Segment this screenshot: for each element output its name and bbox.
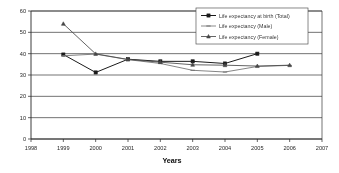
chart-legend: Life expectancy at birth (Total)Life exp… xyxy=(196,8,308,44)
y-tick-label: 60 xyxy=(20,8,26,14)
data-point-marker xyxy=(256,52,259,55)
x-axis-title: Years xyxy=(162,156,181,165)
x-tick-label: 2006 xyxy=(283,145,295,151)
legend-label: Life expectancy at birth (Total) xyxy=(219,13,290,19)
y-axis-ticks: 0102030405060 xyxy=(20,8,31,142)
data-point-marker xyxy=(61,22,65,26)
x-tick-label: 2005 xyxy=(251,145,263,151)
x-tick-label: 1999 xyxy=(57,145,69,151)
legend-label: Life expectancy (Male) xyxy=(219,23,273,29)
line-chart: 0102030405060 19981999200020012002200320… xyxy=(0,0,339,173)
data-point-marker xyxy=(94,71,97,74)
data-series xyxy=(61,54,292,72)
x-tick-label: 2003 xyxy=(186,145,198,151)
x-axis-ticks: 1998199920002001200220032004200520062007 xyxy=(25,139,328,151)
y-tick-label: 10 xyxy=(20,115,26,121)
chart-canvas: 0102030405060 19981999200020012002200320… xyxy=(0,0,339,173)
y-tick-label: 50 xyxy=(20,29,26,35)
x-tick-label: 2007 xyxy=(316,145,328,151)
y-tick-label: 0 xyxy=(23,136,26,142)
x-tick-label: 2000 xyxy=(89,145,101,151)
y-tick-label: 30 xyxy=(20,72,26,78)
y-tick-label: 40 xyxy=(20,51,26,57)
x-tick-label: 1998 xyxy=(25,145,37,151)
data-point-marker xyxy=(207,14,210,17)
legend-label: Life expectancy (Female) xyxy=(219,34,279,40)
x-tick-label: 2001 xyxy=(122,145,134,151)
y-tick-label: 20 xyxy=(20,93,26,99)
series-line xyxy=(63,54,289,72)
x-tick-label: 2004 xyxy=(219,145,231,151)
x-tick-label: 2002 xyxy=(154,145,166,151)
